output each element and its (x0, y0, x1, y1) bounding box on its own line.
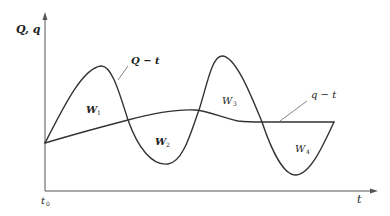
x-axis (45, 189, 378, 194)
diagram-canvas: Q, q t t 0 Q − t q − t W 1 W 2 W 3 W 4 (0, 0, 390, 216)
y-axis-label: Q, q (16, 23, 41, 36)
origin-label: t 0 (41, 195, 50, 207)
Q-t-label: Q − t (131, 55, 160, 66)
x-axis-label: t (357, 193, 362, 206)
region-W1-subscript: 1 (97, 109, 101, 116)
region-W2-label: W 2 (155, 136, 170, 148)
x-axis-arrow-icon (370, 189, 378, 194)
region-W2-subscript: 2 (166, 141, 170, 148)
region-W4-label: W 4 (295, 143, 310, 155)
region-W4-subscript: 4 (306, 148, 310, 155)
Q-t-curve (45, 56, 334, 175)
q-t-label: q − t (311, 89, 337, 100)
region-W3-subscript: 3 (233, 100, 237, 107)
y-axis (43, 12, 48, 191)
region-W3-label: W 3 (222, 95, 237, 107)
region-W4-main: W (295, 143, 306, 154)
y-axis-arrow-icon (43, 12, 48, 20)
q-t-leader-line (280, 101, 307, 121)
region-W3-main: W (222, 95, 233, 106)
Q-t-leader-line (118, 66, 128, 80)
region-W1-label: W 1 (86, 104, 101, 116)
origin-label-subscript: 0 (46, 200, 50, 207)
